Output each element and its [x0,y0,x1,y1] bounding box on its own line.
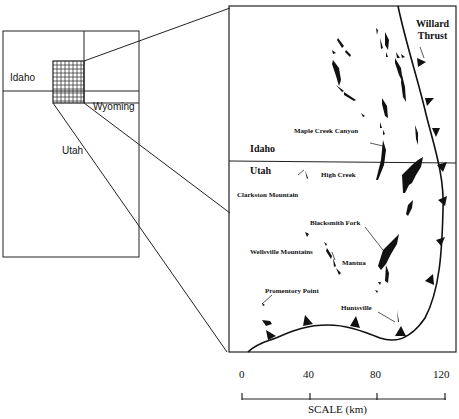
scale-tick-80: 80 [370,368,381,380]
detail-label-idaho: Idaho [250,143,275,154]
label-wellsville: Wellsville Mountains [250,248,313,256]
label-blacksmith: Blacksmith Fork [310,219,360,227]
label-high-creek: High Creek [321,171,356,179]
thrust-teeth [266,58,447,340]
label-mantua: Mantua [342,259,366,267]
detail-label-utah: Utah [250,165,271,176]
scale-tick-0: 0 [239,368,245,380]
overview-label-idaho: Idaho [10,72,35,83]
overview-label-wyoming: Wyoming [93,101,135,112]
map-figure [0,0,459,419]
scale-title: SCALE (km) [308,403,367,415]
overview-label-utah: Utah [62,145,83,156]
fault-label-line1: Willard [416,18,449,30]
fault-label-line2: Thrust [416,30,449,42]
detail-map-frame [229,6,456,352]
scale-tick-40: 40 [303,368,314,380]
scale-tick-120: 120 [433,368,450,380]
scale-bar [242,393,446,400]
leader-lines [262,47,424,322]
zoom-connectors [53,8,230,352]
label-maple-creek: Maple Creek Canyon [294,127,358,135]
study-area-grid [53,61,84,103]
willard-thrust-label: Willard Thrust [416,18,449,42]
label-promontory: Promentory Point [265,287,319,295]
label-clarkston: Clarkston Mountain [237,191,298,199]
label-huntsville: Huntsville [341,304,372,312]
